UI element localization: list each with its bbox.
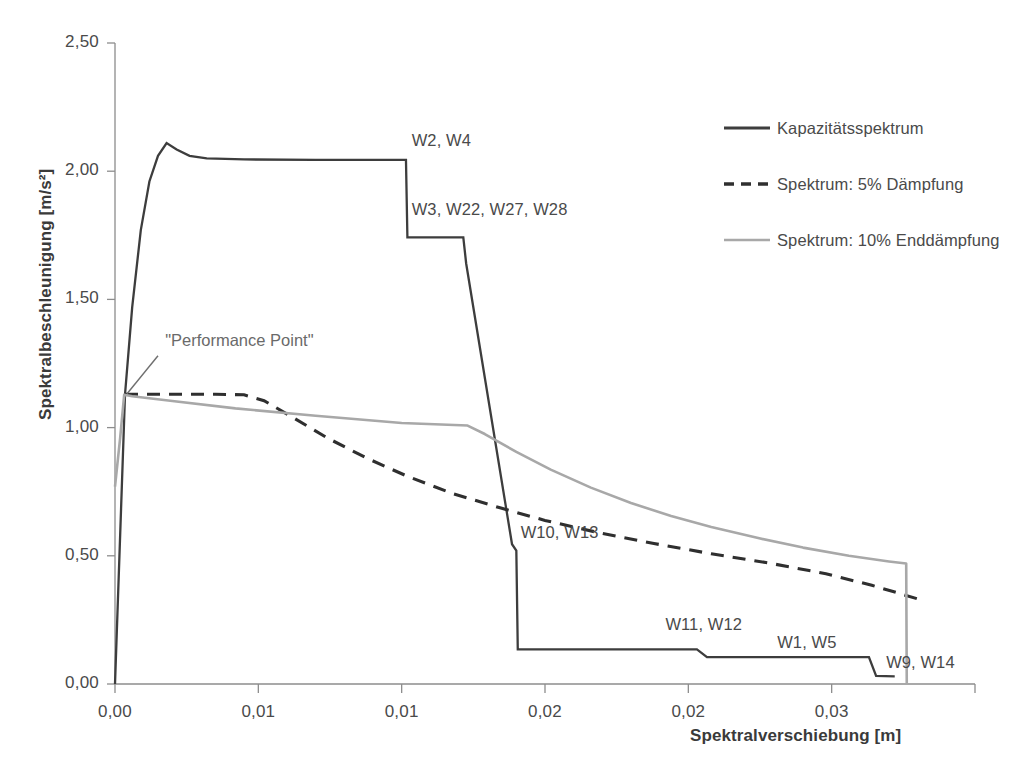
legend-swatch-icon (724, 121, 770, 135)
legend-swatch-icon (724, 233, 770, 247)
y-axis-tick-label: 2,50 (35, 32, 99, 52)
annotation-leaders (127, 356, 158, 394)
legend-swatch-icon (724, 177, 770, 191)
x-axis-tick-label: 0,00 (80, 702, 150, 722)
data-point-label: W10, W13 (521, 523, 599, 542)
chart-legend: KapazitätsspektrumSpektrum: 5% DämpfungS… (724, 100, 1024, 268)
legend-item[interactable]: Kapazitätsspektrum (724, 100, 1024, 156)
x-axis-tick-label: 0,01 (223, 702, 293, 722)
x-axis-title: Spektralverschiebung [m] (690, 726, 901, 746)
series-line-2 (125, 394, 918, 599)
data-point-label: W1, W5 (777, 633, 836, 652)
legend-label: Spektrum: 10% Enddämpfung (777, 231, 1000, 250)
data-point-label: W9, W14 (886, 653, 955, 672)
annotation-leader-line (127, 356, 158, 394)
data-point-label: W3, W22, W27, W28 (412, 200, 568, 219)
x-axis-tick-label: 0,03 (797, 702, 867, 722)
y-axis-tick-label: 0,00 (35, 673, 99, 693)
legend-item[interactable]: Spektrum: 5% Dämpfung (724, 156, 1024, 212)
chart-container: 0,000,501,001,502,002,50 0,000,010,010,0… (0, 0, 1025, 774)
legend-label: Kapazitätsspektrum (777, 119, 924, 138)
legend-item[interactable]: Spektrum: 10% Enddämpfung (724, 212, 1024, 268)
data-point-label: W2, W4 (412, 131, 471, 150)
x-axis-tick-label: 0,02 (653, 702, 723, 722)
data-point-label: W11, W12 (665, 615, 742, 634)
y-axis-tick-label: 0,50 (35, 545, 99, 565)
x-axis-tick-label: 0,02 (510, 702, 580, 722)
y-axis-title: Spektralbeschleunigung [m/s²] (36, 169, 56, 420)
performance-point-annotation: "Performance Point" (165, 331, 313, 350)
legend-label: Spektrum: 5% Dämpfung (777, 175, 963, 194)
x-axis-tick-label: 0,01 (367, 702, 437, 722)
